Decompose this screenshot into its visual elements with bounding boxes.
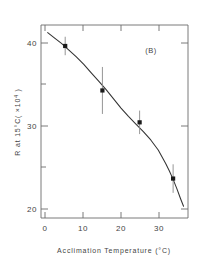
panel-label: (B)	[145, 46, 157, 55]
x-tick-label-0: 0	[42, 224, 47, 233]
y-tick-label-20: 20	[27, 205, 37, 214]
x-tick-label-3: 30	[154, 224, 164, 233]
x-tick-label-2: 20	[116, 224, 126, 233]
data-point-marker	[63, 44, 67, 48]
chart-canvas: 0 10 20 30 40 30 20 (B) Acclimation Temp…	[0, 0, 203, 265]
y-axis-title: R at 15°C( ×104 )	[13, 88, 23, 155]
y-tick-label-30: 30	[27, 122, 37, 131]
x-axis-title: Acclimation Temperature (°C)	[57, 247, 171, 255]
data-point-marker	[138, 120, 142, 124]
y-axis-title-main: R at 15°C	[14, 118, 21, 156]
figure-panel-b: 0 10 20 30 40 30 20 (B) Acclimation Temp…	[0, 0, 203, 265]
data-point-marker	[100, 88, 104, 92]
x-tick-label-1: 10	[78, 224, 88, 233]
y-tick-label-40: 40	[27, 39, 37, 48]
data-point-marker	[171, 176, 175, 180]
y-axis-title-unit: ( ×10	[14, 98, 22, 118]
y-axis-title-close: )	[14, 88, 22, 94]
